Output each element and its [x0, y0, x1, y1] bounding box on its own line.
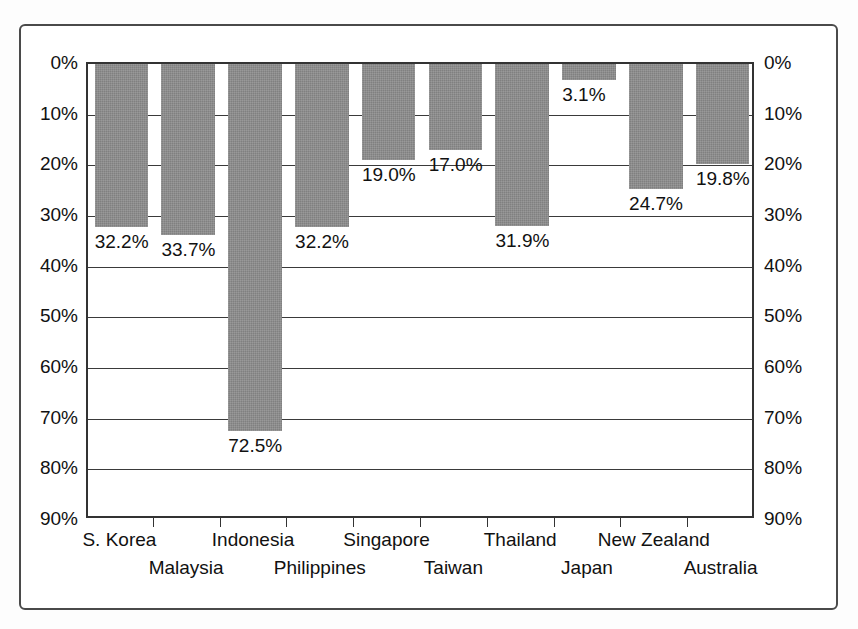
gridline-50: [88, 317, 752, 318]
x-tick-5: [420, 518, 421, 527]
chart-figure: 0%10%20%30%40%50%60%70%80%90% 32.2%33.7%…: [0, 0, 858, 629]
x-tick-7: [554, 518, 555, 527]
y-tick-label-right-90: 90%: [764, 509, 802, 528]
bar-value-s-korea: 32.2%: [95, 232, 149, 251]
x-axis-labels: S. KoreaMalaysiaIndonesiaPhilippinesSing…: [86, 530, 754, 590]
y-tick-label-left-60: 60%: [40, 357, 78, 376]
y-tick-label-right-20: 20%: [764, 154, 802, 173]
x-tick-1: [153, 518, 154, 527]
bar-australia: [696, 64, 749, 164]
y-tick-label-left-40: 40%: [40, 256, 78, 275]
bar-taiwan: [429, 64, 482, 150]
bar-thailand: [495, 64, 548, 226]
bar-value-new-zealand: 24.7%: [629, 194, 683, 213]
y-tick-label-right-40: 40%: [764, 256, 802, 275]
y-tick-label-left-0: 0%: [51, 53, 78, 72]
y-axis-left: 0%10%20%30%40%50%60%70%80%90%: [20, 62, 78, 518]
y-tick-label-right-50: 50%: [764, 306, 802, 325]
gridline-70: [88, 419, 752, 420]
y-tick-label-left-80: 80%: [40, 458, 78, 477]
y-tick-label-right-10: 10%: [764, 104, 802, 123]
bar-value-philippines: 32.2%: [295, 232, 349, 251]
bar-japan: [562, 64, 615, 80]
y-tick-label-right-0: 0%: [764, 53, 791, 72]
y-tick-label-right-70: 70%: [764, 408, 802, 427]
x-axis-ticks: [86, 518, 754, 528]
y-tick-label-left-70: 70%: [40, 408, 78, 427]
bar-value-thailand: 31.9%: [495, 231, 549, 250]
bar-malaysia: [161, 64, 214, 235]
bar-value-malaysia: 33.7%: [161, 240, 215, 259]
bar-value-singapore: 19.0%: [362, 165, 416, 184]
bar-new-zealand: [629, 64, 682, 189]
y-tick-label-right-80: 80%: [764, 458, 802, 477]
x-axis-label-australia: Australia: [637, 558, 804, 577]
gridline-40: [88, 267, 752, 268]
bar-value-taiwan: 17.0%: [429, 155, 483, 174]
bar-indonesia: [228, 64, 281, 431]
x-axis-label-new-zealand: New Zealand: [570, 530, 737, 549]
y-tick-label-left-90: 90%: [40, 509, 78, 528]
x-tick-8: [620, 518, 621, 527]
bar-value-japan: 3.1%: [562, 85, 605, 104]
x-tick-6: [487, 518, 488, 527]
bar-singapore: [362, 64, 415, 160]
gridline-60: [88, 368, 752, 369]
y-tick-label-left-50: 50%: [40, 306, 78, 325]
bar-value-indonesia: 72.5%: [228, 436, 282, 455]
x-tick-9: [687, 518, 688, 527]
bar-value-australia: 19.8%: [696, 169, 750, 188]
y-tick-label-right-60: 60%: [764, 357, 802, 376]
gridline-80: [88, 469, 752, 470]
y-tick-label-left-10: 10%: [40, 104, 78, 123]
y-tick-label-left-30: 30%: [40, 205, 78, 224]
plot-wrapper: 32.2%33.7%72.5%32.2%19.0%17.0%31.9%3.1%2…: [86, 62, 754, 518]
bar-s-korea: [95, 64, 148, 227]
y-axis-right: 0%10%20%30%40%50%60%70%80%90%: [764, 62, 834, 518]
x-tick-2: [220, 518, 221, 527]
bar-philippines: [295, 64, 348, 227]
x-tick-3: [286, 518, 287, 527]
y-tick-label-left-20: 20%: [40, 154, 78, 173]
y-tick-label-right-30: 30%: [764, 205, 802, 224]
plot-area: 32.2%33.7%72.5%32.2%19.0%17.0%31.9%3.1%2…: [86, 62, 754, 518]
x-tick-4: [353, 518, 354, 527]
